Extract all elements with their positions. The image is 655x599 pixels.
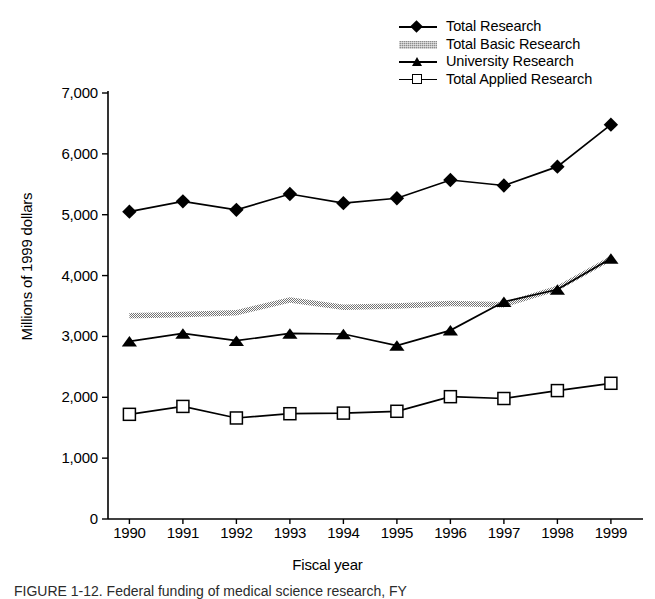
series-total-applied-research-line bbox=[129, 383, 611, 418]
series-total-applied-research-marker bbox=[337, 407, 349, 419]
series-total-applied-research-marker bbox=[551, 385, 563, 397]
series-total-research-marker bbox=[229, 203, 243, 217]
series-total-applied-research-marker bbox=[444, 391, 456, 403]
figure-caption: FIGURE 1-12. Federal funding of medical … bbox=[14, 583, 644, 599]
series-university-research-line bbox=[129, 259, 611, 346]
series-total-applied-research-marker bbox=[177, 400, 189, 412]
series-total-applied-research-marker bbox=[230, 412, 242, 424]
series-university-research-marker bbox=[389, 340, 404, 351]
series-total-applied-research-marker bbox=[391, 405, 403, 417]
series-total-research-marker bbox=[604, 117, 618, 131]
series-total-research-line bbox=[129, 125, 611, 212]
series-total-research-marker bbox=[390, 191, 404, 205]
series-total-research-marker bbox=[443, 173, 457, 187]
series-total-research-marker bbox=[336, 196, 350, 210]
series-total-research-marker bbox=[497, 178, 511, 192]
series-total-basic-research-band bbox=[129, 256, 611, 319]
series-university-research-marker bbox=[603, 253, 618, 264]
series-total-research-marker bbox=[550, 159, 564, 173]
series-total-research-marker bbox=[283, 187, 297, 201]
series-total-applied-research-marker bbox=[498, 393, 510, 405]
figure-container: Total Research Total Basic Research Univ… bbox=[0, 0, 655, 599]
series-total-research-marker bbox=[122, 204, 136, 218]
series-total-research-marker bbox=[176, 194, 190, 208]
series-total-applied-research-marker bbox=[123, 408, 135, 420]
plot-area bbox=[0, 0, 655, 599]
series-total-applied-research-marker bbox=[284, 408, 296, 420]
series-total-applied-research-marker bbox=[605, 377, 617, 389]
